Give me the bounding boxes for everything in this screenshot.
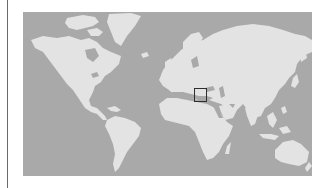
left-divider-line <box>7 0 8 188</box>
highlight-box-italy[interactable] <box>194 88 207 102</box>
world-map[interactable] <box>23 12 312 176</box>
world-map-svg <box>23 12 312 176</box>
